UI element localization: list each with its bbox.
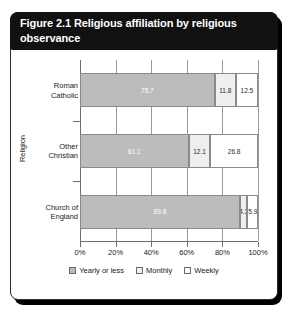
bar-1: 75.711.812.5: [80, 73, 258, 107]
bar-value-label: 12.5: [241, 87, 254, 94]
x-axis-label: 60%: [167, 248, 207, 257]
chart-plot-area: Religion Roman CatholicOther ChristianCh…: [10, 52, 278, 300]
y-axis-title: Religion: [18, 119, 27, 179]
category-label: Roman Catholic: [30, 81, 78, 99]
x-axis-label: 20%: [96, 248, 136, 257]
bar-value-label: 5.9: [248, 208, 257, 215]
bar-segment: 75.7: [80, 73, 215, 107]
legend-label: Weekly: [194, 266, 218, 275]
bar-segment: 11.8: [215, 73, 236, 107]
bar-value-label: 11.8: [219, 87, 231, 94]
category-label: Other Christian: [30, 142, 78, 160]
bar-value-label: 75.7: [141, 87, 154, 94]
x-axis-tick: [187, 242, 188, 247]
legend-label: Yearly or less: [79, 266, 124, 275]
x-axis-tick: [116, 242, 117, 247]
bar-segment: 12.1: [189, 134, 211, 168]
y-axis-tick: [73, 181, 80, 182]
bar-3: 89.84.35.9: [80, 195, 258, 229]
y-axis-tick: [73, 121, 80, 122]
legend-item[interactable]: Monthly: [136, 266, 172, 275]
figure-card: Figure 2.1 Religious affiliation by reli…: [0, 0, 290, 313]
gridline: [258, 60, 259, 241]
x-axis-label: 80%: [202, 248, 242, 257]
x-axis-tick: [80, 242, 81, 247]
x-axis-tick: [222, 242, 223, 247]
bar-value-label: 26.8: [228, 148, 241, 155]
bar-value-label: 4.3: [240, 208, 248, 215]
legend-label: Monthly: [146, 266, 172, 275]
bar-segment: 5.9: [247, 195, 258, 229]
figure-title-bar: Figure 2.1 Religious affiliation by reli…: [10, 12, 278, 50]
bar-segment: 26.8: [210, 134, 258, 168]
x-axis-label: 40%: [131, 248, 171, 257]
category-label: Church of England: [30, 203, 78, 221]
bar-value-label: 61.1: [128, 148, 141, 155]
x-axis-tick: [151, 242, 152, 247]
legend-swatch-icon: [184, 267, 191, 274]
x-axis-tick: [258, 242, 259, 247]
page-title: Figure 2.1 Religious affiliation by reli…: [20, 16, 268, 45]
bar-value-label: 12.1: [193, 148, 206, 155]
legend-swatch-icon: [136, 267, 143, 274]
legend-item[interactable]: Yearly or less: [69, 266, 124, 275]
chart-legend: Yearly or lessMonthlyWeekly: [10, 266, 278, 275]
category-axis-labels: Roman CatholicOther ChristianChurch of E…: [30, 60, 78, 242]
bar-segment: 12.5: [236, 73, 258, 107]
legend-item[interactable]: Weekly: [184, 266, 218, 275]
bar-segment: 89.8: [80, 195, 240, 229]
x-axis-label: 0%: [60, 248, 100, 257]
bar-2: 61.112.126.8: [80, 134, 258, 168]
legend-swatch-icon: [69, 267, 76, 274]
bar-value-label: 89.8: [154, 208, 167, 215]
bar-segment: 61.1: [80, 134, 189, 168]
bar-segment: 4.3: [240, 195, 248, 229]
x-axis-label: 100%: [238, 248, 278, 257]
